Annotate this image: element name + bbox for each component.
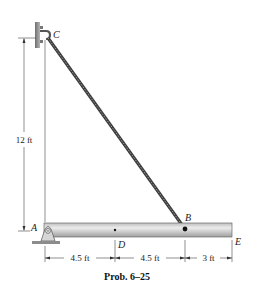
arrow-down-icon [23, 226, 26, 231]
arrow-right-icon [180, 257, 185, 260]
arrow-left-icon [115, 257, 120, 260]
arrow-up-icon [23, 38, 26, 43]
figure-caption: Prob. 6–25 [104, 271, 150, 282]
dim-label-12ft: 12 ft [16, 135, 33, 145]
dim-label-db: 4.5 ft [141, 253, 160, 263]
point-d-marker [114, 229, 116, 231]
wall-plate [35, 22, 40, 48]
label-b: B [185, 212, 191, 223]
label-a: A [30, 222, 38, 233]
beam-ae [44, 223, 232, 237]
arrow-right-icon [110, 257, 115, 260]
arrow-left-icon [185, 257, 190, 260]
arrow-left-icon [45, 257, 50, 260]
label-c: C [53, 29, 60, 40]
dimension-be: 3 ft [185, 253, 232, 263]
arrow-right-icon [227, 257, 232, 260]
dim-label-be: 3 ft [202, 253, 215, 263]
ground-icon [32, 241, 60, 244]
bolt-top [40, 26, 43, 29]
beam-cable-diagram: 12 ft C A B D E 4.5 ft 4.5 ft [0, 0, 254, 293]
point-b-marker [183, 227, 188, 232]
pin-center [47, 230, 49, 232]
label-d: D [117, 239, 126, 250]
bolt-bottom [40, 40, 43, 43]
dimension-12ft: 12 ft [16, 38, 36, 231]
label-e: E [234, 236, 241, 247]
dim-label-ad: 4.5 ft [71, 253, 90, 263]
wall-bracket-c [35, 22, 50, 48]
dimension-db: 4.5 ft [115, 253, 185, 263]
dimension-ad: 4.5 ft [45, 253, 115, 263]
